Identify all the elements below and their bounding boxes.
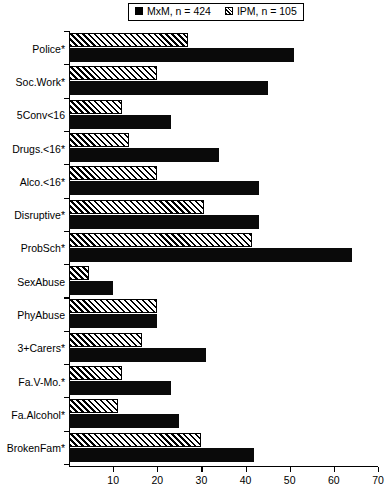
bar-group <box>69 165 379 198</box>
y-axis-tick <box>64 397 69 398</box>
bar-ipm <box>69 399 118 413</box>
x-axis-tick-label: 40 <box>240 474 252 486</box>
bar-mxm <box>69 81 268 95</box>
bar-mxm <box>69 48 294 62</box>
x-axis-tick-label: 20 <box>151 474 163 486</box>
bar-ipm <box>69 33 188 47</box>
bar-mxm <box>69 148 219 162</box>
bar-group <box>69 65 379 98</box>
bar-mxm <box>69 414 179 428</box>
y-axis-label: Police* <box>1 44 65 55</box>
x-axis-tick <box>201 467 202 472</box>
bar-ipm <box>69 200 204 214</box>
bar-group <box>69 332 379 365</box>
x-axis-tick <box>378 467 379 472</box>
x-axis-tick-label: 70 <box>372 474 384 486</box>
legend-entry-mxm: MxM, n = 424 <box>135 6 211 17</box>
x-axis-tick <box>290 467 291 472</box>
x-axis-tick-label: 60 <box>328 474 340 486</box>
bar-group <box>69 365 379 398</box>
y-axis-tick <box>64 31 69 32</box>
y-axis-tick <box>64 264 69 265</box>
y-axis-label: Fa.V-Mo.* <box>1 377 65 388</box>
plot-area <box>69 32 379 466</box>
bar-ipm <box>69 133 129 147</box>
bar-mxm <box>69 381 171 395</box>
y-axis-tick <box>64 164 69 165</box>
legend-label-mxm: MxM, n = 424 <box>147 6 211 17</box>
y-axis-tick <box>64 331 69 332</box>
bar-group <box>69 132 379 165</box>
y-axis-label: 5Conv<16 <box>1 110 65 121</box>
y-axis-tick <box>64 297 69 298</box>
y-axis-tick <box>64 231 69 232</box>
bar-ipm <box>69 166 157 180</box>
bar-mxm <box>69 181 259 195</box>
bar-ipm <box>69 299 157 313</box>
x-axis-tick-label: 30 <box>196 474 208 486</box>
y-axis-label: Fa.Alcohol* <box>1 410 65 421</box>
y-axis-label: Soc.Work* <box>1 77 65 88</box>
bar-mxm <box>69 248 352 262</box>
y-axis-label: BrokenFam* <box>1 443 65 454</box>
y-axis-labels: Police*Soc.Work*5Conv<16Drugs.<16*Alco.<… <box>0 32 65 466</box>
y-axis-label: PhyAbuse <box>1 310 65 321</box>
bar-ipm <box>69 433 201 447</box>
x-axis-tick-label: 50 <box>284 474 296 486</box>
bar-group <box>69 232 379 265</box>
chart-legend: MxM, n = 424 IPM, n = 105 <box>128 3 304 21</box>
bar-ipm <box>69 233 252 247</box>
bar-group <box>69 99 379 132</box>
x-axis-line <box>69 466 378 467</box>
bar-mxm <box>69 448 254 462</box>
bar-chart: MxM, n = 424 IPM, n = 105 Police*Soc.Wor… <box>0 0 391 500</box>
x-axis-tick <box>334 467 335 472</box>
bar-mxm <box>69 348 206 362</box>
bar-mxm <box>69 314 157 328</box>
bar-group <box>69 298 379 331</box>
bar-mxm <box>69 215 259 229</box>
legend-label-ipm: IPM, n = 105 <box>237 6 297 17</box>
bar-ipm <box>69 100 122 114</box>
hatched-square-icon <box>225 7 233 15</box>
bar-group <box>69 199 379 232</box>
bar-group <box>69 265 379 298</box>
y-axis-label: Alco.<16* <box>1 177 65 188</box>
x-axis-tick-label: 10 <box>107 474 119 486</box>
x-axis-tick <box>246 467 247 472</box>
bar-group <box>69 32 379 65</box>
bar-mxm <box>69 115 171 129</box>
y-axis-label: SexAbuse <box>1 277 65 288</box>
bar-mxm <box>69 281 113 295</box>
bar-ipm <box>69 366 122 380</box>
y-axis-label: Drugs.<16* <box>1 144 65 155</box>
y-axis-tick <box>64 98 69 99</box>
y-axis-label: Disruptive* <box>1 210 65 221</box>
bar-ipm <box>69 266 89 280</box>
bar-group <box>69 398 379 431</box>
y-axis-tick <box>64 464 69 465</box>
y-axis-label: ProbSch* <box>1 243 65 254</box>
y-axis-tick <box>64 198 69 199</box>
solid-square-icon <box>135 7 143 15</box>
x-axis-tick <box>113 467 114 472</box>
bar-ipm <box>69 333 142 347</box>
legend-entry-ipm: IPM, n = 105 <box>225 6 297 17</box>
bar-group <box>69 432 379 465</box>
bar-ipm <box>69 66 157 80</box>
y-axis-tick <box>64 64 69 65</box>
x-axis-tick <box>157 467 158 472</box>
y-axis-tick <box>64 431 69 432</box>
y-axis-label: 3+Carers* <box>1 343 65 354</box>
y-axis-tick <box>64 364 69 365</box>
y-axis-tick <box>64 131 69 132</box>
